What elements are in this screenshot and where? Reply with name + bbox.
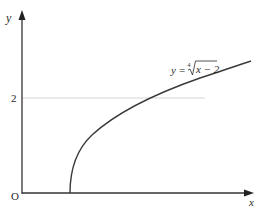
root-index: 4 <box>188 62 191 68</box>
graph-figure: y x O 2 y = 4 x − 2 <box>0 0 266 212</box>
equation-equals: = <box>179 64 185 76</box>
x-axis-label: x <box>248 196 254 208</box>
y-axis-arrow-icon <box>19 10 26 20</box>
function-curve <box>70 61 251 193</box>
y-tick-label-2: 2 <box>11 92 17 104</box>
curve-equation-label: y = 4 x − 2 <box>170 61 220 76</box>
equation-lhs: y <box>170 64 176 76</box>
equation-radicand: x − 2 <box>195 63 220 75</box>
y-axis-label: y <box>5 11 12 25</box>
origin-label: O <box>11 190 19 202</box>
